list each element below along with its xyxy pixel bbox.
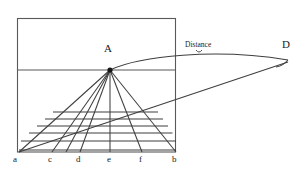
label-baseline-d: d [76,155,81,164]
ray-d [80,70,110,152]
label-baseline-f: f [139,155,142,164]
distance-diagonal [19,62,288,152]
ray-c [52,70,110,152]
orthogonal-rays [19,70,176,152]
distance-brace-tick [196,50,202,52]
distance-arc [110,54,288,70]
label-baseline-e: e [107,155,111,164]
perspective-grid-svg [0,0,308,172]
label-baseline-a: a [13,155,17,164]
label-baseline-c: c [48,155,52,164]
label-distance-point-d: D [282,39,290,50]
label-baseline-b: b [172,155,177,164]
ray-a [19,70,110,152]
figure-canvas: A D Distance a c d e f b [0,0,308,172]
label-distance-bracket: Distance [185,41,211,49]
ray-inner [66,70,110,152]
vanishing-point-dot [107,67,112,72]
ray-f [110,70,142,152]
label-vanishing-point-a: A [104,43,112,54]
